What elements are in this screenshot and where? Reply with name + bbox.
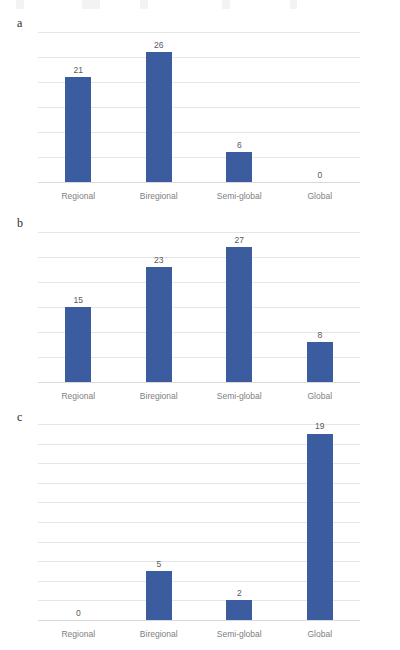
- x-axis-tick-label: Semi-global: [199, 192, 280, 201]
- x-axis-tick-label: Global: [280, 192, 361, 201]
- bar[interactable]: [226, 600, 252, 620]
- bar-slot: 19: [280, 424, 361, 620]
- bar[interactable]: [307, 342, 333, 382]
- bar-value-label: 0: [76, 609, 81, 618]
- bar-slot: 6: [199, 32, 280, 182]
- bar-value-label: 27: [235, 236, 244, 245]
- bar[interactable]: [146, 267, 172, 382]
- x-axis-tick-label: Regional: [38, 630, 119, 639]
- bar-value-label: 8: [317, 331, 322, 340]
- bar[interactable]: [146, 52, 172, 182]
- x-axis-tick-label: Semi-global: [199, 392, 280, 401]
- panel-label-c: c: [17, 411, 22, 423]
- bar-value-label: 21: [74, 66, 83, 75]
- panel-label-a: a: [17, 17, 22, 29]
- bar[interactable]: [226, 152, 252, 182]
- bar-slot: 15: [38, 232, 119, 382]
- bar[interactable]: [226, 247, 252, 382]
- bars-a: 212660: [38, 32, 360, 182]
- bar-slot: 0: [280, 32, 361, 182]
- gridline: [38, 382, 360, 383]
- x-axis-tick-label: Biregional: [119, 192, 200, 201]
- x-axis-tick-label: Global: [280, 392, 361, 401]
- bar-slot: 2: [199, 424, 280, 620]
- chart-panel-a: a 212660 051015202530 RegionalBiregional…: [0, 14, 400, 210]
- bar-value-label: 6: [237, 141, 242, 150]
- chart-panel-c: c 05219 02468101214161820 RegionalBiregi…: [0, 408, 400, 646]
- gridline: [38, 182, 360, 183]
- bar-slot: 5: [119, 424, 200, 620]
- x-axis-tick-label: Global: [280, 630, 361, 639]
- bar-slot: 26: [119, 32, 200, 182]
- x-axis-tick-label: Regional: [38, 392, 119, 401]
- bar-slot: 8: [280, 232, 361, 382]
- panel-label-b: b: [17, 217, 23, 229]
- chart-panel-b: b 1523278 051015202530 RegionalBiregiona…: [0, 214, 400, 410]
- scan-artifact: [0, 0, 400, 9]
- bar-value-label: 0: [317, 171, 322, 180]
- bar-value-label: 2: [237, 589, 242, 598]
- bars-b: 1523278: [38, 232, 360, 382]
- bar-slot: 23: [119, 232, 200, 382]
- x-axis-tick-label: Regional: [38, 192, 119, 201]
- bar[interactable]: [65, 77, 91, 182]
- bar-value-label: 15: [74, 296, 83, 305]
- gridline: [38, 620, 360, 621]
- x-axis-tick-label: Semi-global: [199, 630, 280, 639]
- bar-value-label: 19: [315, 422, 324, 431]
- bar-value-label: 26: [154, 41, 163, 50]
- bar-value-label: 23: [154, 256, 163, 265]
- bar-chart-figure: a 212660 051015202530 RegionalBiregional…: [0, 0, 400, 650]
- x-axis-tick-label: Biregional: [119, 392, 200, 401]
- bar-slot: 21: [38, 32, 119, 182]
- bars-c: 05219: [38, 424, 360, 620]
- bar[interactable]: [65, 307, 91, 382]
- bar[interactable]: [307, 434, 333, 620]
- bar[interactable]: [146, 571, 172, 620]
- bar-value-label: 5: [156, 560, 161, 569]
- bar-slot: 27: [199, 232, 280, 382]
- bar-slot: 0: [38, 424, 119, 620]
- x-axis-tick-label: Biregional: [119, 630, 200, 639]
